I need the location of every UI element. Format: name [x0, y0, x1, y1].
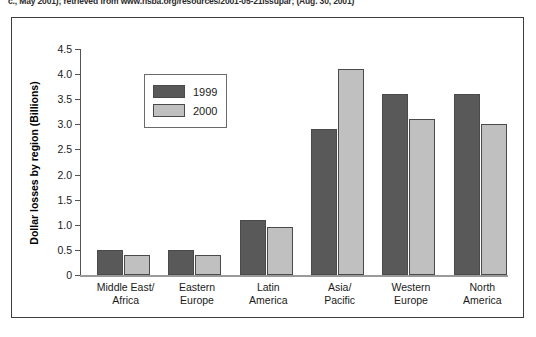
legend-label-2000: 2000 [193, 105, 217, 117]
legend-item-1999: 1999 [153, 82, 217, 101]
legend-item-2000: 2000 [153, 101, 217, 120]
bar-2000-2 [267, 227, 293, 275]
bar-2000-0 [124, 255, 150, 275]
y-axis-title: Dollar losses by region (Billions) [26, 49, 42, 277]
y-axis-tick-label: 1.5 [57, 194, 72, 206]
y-axis-tick [75, 49, 80, 50]
y-axis-tick [75, 275, 80, 276]
y-axis-tick-label: 2.5 [57, 143, 72, 155]
y-axis-tick [75, 175, 80, 176]
y-axis-tick-label: 4.5 [57, 43, 72, 55]
category-label-line: North [439, 281, 525, 294]
y-axis-tick [75, 124, 80, 125]
y-axis-tick [75, 149, 80, 150]
legend-swatch-1999 [153, 85, 185, 98]
y-axis-line [80, 49, 81, 277]
y-axis-tick-label: 3.5 [57, 93, 72, 105]
bar-group [304, 49, 375, 275]
y-axis-tick-label: 0 [66, 269, 72, 281]
y-axis-tick [75, 99, 80, 100]
chart-legend: 1999 2000 [144, 74, 227, 128]
bar-1999-3 [311, 129, 337, 275]
y-axis-tick [75, 74, 80, 75]
bar-group [375, 49, 446, 275]
y-axis-tick-label: 2.0 [57, 169, 72, 181]
bar-1999-1 [168, 250, 194, 275]
figure-frame: Dollar losses by region (Billions) 4.54.… [11, 17, 524, 318]
x-axis-category-label: NorthAmerica [439, 281, 525, 306]
bar-2000-1 [195, 255, 221, 275]
bar-1999-4 [382, 94, 408, 275]
citation-text: c., May 2001); retrieved from www.nsba.o… [8, 0, 528, 7]
bar-1999-2 [240, 220, 266, 275]
bar-2000-5 [481, 124, 507, 275]
y-axis-tick [75, 250, 80, 251]
bar-2000-3 [338, 69, 364, 275]
x-axis-line [80, 275, 508, 277]
category-label-line: America [439, 294, 525, 307]
bar-2000-4 [409, 119, 435, 275]
bar-group [233, 49, 304, 275]
legend-label-1999: 1999 [193, 86, 217, 98]
y-axis-title-label: Dollar losses by region (Billions) [28, 81, 40, 244]
y-axis-tick [75, 225, 80, 226]
bar-1999-5 [454, 94, 480, 275]
bar-group [447, 49, 518, 275]
y-axis-tick-label: 0.5 [57, 244, 72, 256]
y-axis-tick [75, 200, 80, 201]
legend-swatch-2000 [153, 104, 185, 117]
y-axis-tick-label: 1.0 [57, 219, 72, 231]
y-axis-tick-label: 3.0 [57, 118, 72, 130]
bar-1999-0 [97, 250, 123, 275]
y-axis-tick-label: 4.0 [57, 68, 72, 80]
